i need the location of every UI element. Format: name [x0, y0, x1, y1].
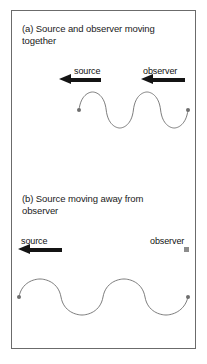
- arrow-shaft: [152, 78, 185, 83]
- panel-a-wave: [78, 91, 189, 129]
- panel-b: (b) Source moving away from observer sou…: [12, 181, 195, 350]
- panel-b-observer-square-marker: [184, 247, 189, 252]
- arrow-shaft: [70, 78, 101, 83]
- panel-b-source-arrow-left-icon: [18, 244, 62, 255]
- doppler-effect-figure: (a) Source and observer moving together …: [0, 0, 207, 364]
- panel-a-wave-path: [79, 92, 188, 128]
- panel-a-wave-right-endpoint-dot: [186, 108, 190, 112]
- arrow-shaft: [29, 248, 62, 253]
- panel-a-observer-arrow-left-icon: [141, 74, 185, 85]
- panel-b-wave: [18, 278, 189, 316]
- panel-a-wave-left-endpoint-dot: [77, 108, 81, 112]
- panel-a: (a) Source and observer moving together …: [12, 11, 195, 180]
- figure-border-box: (a) Source and observer moving together …: [11, 10, 196, 349]
- arrow-head: [59, 74, 71, 84]
- arrow-head: [18, 244, 30, 254]
- panel-b-wave-path: [19, 279, 188, 315]
- panel-a-title: (a) Source and observer moving together: [22, 23, 182, 46]
- panel-b-observer-label: observer: [150, 236, 184, 246]
- panel-b-wave-left-endpoint-dot: [17, 295, 21, 299]
- arrow-head: [141, 74, 153, 84]
- panel-a-source-arrow-left-icon: [59, 74, 101, 85]
- panel-b-wave-right-endpoint-dot: [186, 295, 190, 299]
- panel-b-title: (b) Source moving away from observer: [22, 193, 182, 216]
